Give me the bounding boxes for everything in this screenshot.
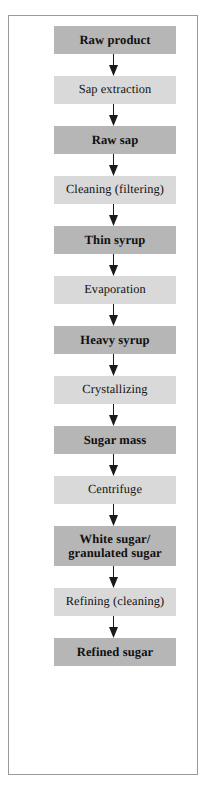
flow-arrow-sugar-mass-to-centrifuge: [108, 454, 119, 476]
flow-arrow-white-sugar-to-refining: [108, 566, 119, 588]
flow-node-evaporation: Evaporation: [54, 276, 176, 304]
arrow-down-icon: [108, 304, 119, 326]
arrow-down-icon: [108, 154, 119, 176]
flow-arrow-thin-syrup-to-evaporation: [108, 254, 119, 276]
flow-arrow-raw-sap-to-cleaning: [108, 154, 119, 176]
flow-node-thin-syrup: Thin syrup: [54, 226, 176, 254]
flow-node-label-heavy-syrup: Heavy syrup: [54, 333, 176, 347]
flow-node-label-cleaning: Cleaning (filtering): [54, 183, 176, 197]
flow-node-raw-sap: Raw sap: [54, 126, 176, 154]
flow-node-centrifuge: Centrifuge: [54, 476, 176, 504]
flow-arrow-crystallizing-to-sugar-mass: [108, 404, 119, 426]
flow-node-white-sugar: White sugar/granulated sugar: [54, 526, 176, 566]
flow-node-label-thin-syrup: Thin syrup: [54, 233, 176, 247]
arrow-down-icon: [108, 54, 119, 76]
flow-arrow-evaporation-to-heavy-syrup: [108, 304, 119, 326]
flow-node-crystallizing: Crystallizing: [54, 376, 176, 404]
flow-arrow-cleaning-to-thin-syrup: [108, 204, 119, 226]
flow-arrow-raw-product-to-sap-extraction: [108, 54, 119, 76]
arrow-down-icon: [108, 454, 119, 476]
flowchart: Raw productSap extractionRaw sapCleaning…: [9, 16, 197, 774]
flow-node-label-sugar-mass: Sugar mass: [54, 433, 176, 447]
flow-arrow-refining-to-refined-sugar: [108, 616, 119, 638]
arrow-down-icon: [108, 566, 119, 588]
flow-node-label-raw-sap: Raw sap: [54, 133, 176, 147]
arrow-down-icon: [108, 404, 119, 426]
flow-node-heavy-syrup: Heavy syrup: [54, 326, 176, 354]
flow-node-label-white-sugar: White sugar/granulated sugar: [54, 532, 176, 560]
arrow-down-icon: [108, 616, 119, 638]
arrow-down-icon: [108, 104, 119, 126]
flow-node-label-refining: Refining (cleaning): [54, 595, 176, 609]
flow-arrow-sap-extraction-to-raw-sap: [108, 104, 119, 126]
flow-node-label-crystallizing: Crystallizing: [54, 383, 176, 397]
arrow-down-icon: [108, 254, 119, 276]
flow-node-sap-extraction: Sap extraction: [54, 76, 176, 104]
flow-node-refined-sugar: Refined sugar: [54, 638, 176, 666]
flow-node-refining: Refining (cleaning): [54, 588, 176, 616]
flow-node-label-raw-product: Raw product: [54, 33, 176, 47]
flow-node-label-refined-sugar: Refined sugar: [54, 645, 176, 659]
flow-node-raw-product: Raw product: [54, 26, 176, 54]
flow-arrow-centrifuge-to-white-sugar: [108, 504, 119, 526]
flow-node-cleaning: Cleaning (filtering): [54, 176, 176, 204]
flow-node-label-centrifuge: Centrifuge: [54, 483, 176, 497]
flow-node-label-sap-extraction: Sap extraction: [54, 83, 176, 97]
arrow-down-icon: [108, 504, 119, 526]
flow-node-sugar-mass: Sugar mass: [54, 426, 176, 454]
arrow-down-icon: [108, 204, 119, 226]
arrow-down-icon: [108, 354, 119, 376]
flow-node-label-evaporation: Evaporation: [54, 283, 176, 297]
flow-arrow-heavy-syrup-to-crystallizing: [108, 354, 119, 376]
figure-frame: Raw productSap extractionRaw sapCleaning…: [8, 15, 198, 775]
